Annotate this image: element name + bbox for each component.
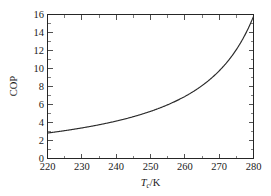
y-tick-label: 14 — [34, 27, 45, 38]
y-axis-title-text: COP — [8, 76, 19, 97]
chart-figure: 220 230 240 250 260 270 280 0 2 4 6 8 10… — [0, 0, 271, 196]
y-tick-label: 0 — [39, 153, 44, 164]
cop-vs-temperature-chart: 220 230 240 250 260 270 280 0 2 4 6 8 10… — [0, 0, 271, 196]
y-tick-label: 12 — [34, 45, 45, 56]
x-tick-label: 240 — [108, 161, 124, 172]
y-tick-label: 8 — [39, 81, 44, 92]
y-tick-label: 6 — [39, 99, 44, 110]
x-tick-label: 270 — [211, 161, 227, 172]
x-tick-label: 250 — [143, 161, 159, 172]
y-tick-label: 16 — [34, 9, 45, 20]
y-tick-label: 4 — [39, 117, 45, 128]
x-tick-label: 280 — [246, 161, 262, 172]
x-tick-label: 230 — [74, 161, 90, 172]
y-tick-label: 2 — [39, 135, 44, 146]
y-tick-label: 10 — [34, 63, 45, 74]
x-tick-label: 260 — [177, 161, 193, 172]
x-axis-title-unit: /K — [150, 177, 161, 188]
y-axis-title: COP — [8, 76, 19, 97]
